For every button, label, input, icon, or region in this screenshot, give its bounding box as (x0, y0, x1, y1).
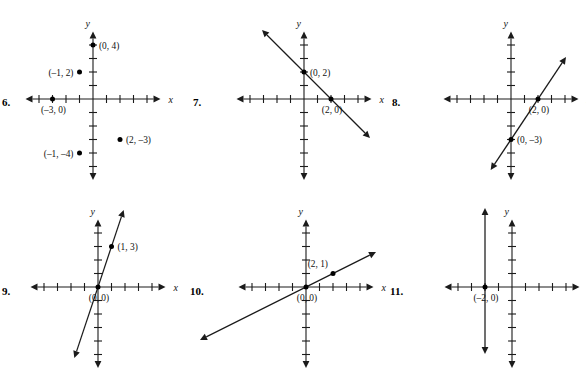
problem-6-x-axis-arrow-right (154, 96, 161, 103)
problem-7-number: 7. (193, 96, 201, 108)
problem-11-x-axis-arrow-right (573, 284, 580, 291)
problem-11-panel: 11.xy(–2, 0) (390, 186, 586, 370)
problem-8-y-axis-arrow-up (508, 32, 515, 39)
problem-7-point-label: (2, 0) (322, 105, 342, 116)
problem-10-y-axis-arrow-up (303, 220, 310, 227)
problem-6-point (50, 97, 55, 102)
problem-8-point (509, 137, 514, 142)
problem-9-y-axis-label: y (90, 206, 96, 217)
problem-9-y-axis-arrow-down (95, 361, 102, 368)
problem-6-y-axis-arrow-up (90, 32, 97, 39)
problem-9-y-axis-arrow-up (95, 220, 102, 227)
problem-7-point-label: (0, 2) (310, 68, 330, 79)
problem-11-point (483, 285, 488, 290)
problem-11-line-arrow-end (482, 347, 489, 354)
problem-9-x-axis-label: x (173, 282, 179, 293)
problem-6-point-label: (–1, 2) (49, 68, 74, 79)
problem-6-panel: 6.xy(0, 4)(–1, 2)(–3, 0)(2, –3)(–1, –4) (0, 0, 196, 186)
problem-7-x-axis-label: x (379, 94, 385, 105)
problem-10-point-label: (0, 0) (297, 293, 317, 304)
problem-9-panel: 9.xy(1, 3)(0, 0) (0, 186, 196, 370)
problem-9-point (96, 285, 101, 290)
problem-9-point (109, 244, 114, 249)
problem-9-graph-line (77, 217, 122, 352)
problem-8-line-arrow-end (559, 57, 566, 65)
problem-9-graph: xy(1, 3)(0, 0) (0, 186, 196, 370)
problem-6-x-axis-label: x (168, 94, 174, 105)
problem-6-graph: xy(0, 4)(–1, 2)(–3, 0)(2, –3)(–1, –4) (0, 0, 196, 186)
problem-8-point-label: (0, –3) (517, 135, 542, 146)
problem-7-graph-line (267, 35, 365, 133)
problem-10-point-label: (2, 1) (308, 259, 328, 270)
problem-9-x-axis-arrow-left (31, 284, 38, 291)
problem-6-y-axis-arrow-down (90, 173, 97, 180)
problem-6-point-label: (–1, –4) (44, 149, 74, 160)
problem-7-y-axis-label: y (296, 18, 302, 29)
problem-7-graph: xy(0, 2)(2, 0) (190, 0, 386, 186)
problem-6-point-label: (2, –3) (126, 135, 151, 146)
problem-8-point (536, 97, 541, 102)
problem-10-graph-line (206, 255, 369, 337)
problem-11-y-axis-arrow-down (509, 361, 516, 368)
problem-8-x-axis-arrow-left (444, 96, 451, 103)
exercise-sheet: 6.xy(0, 4)(–1, 2)(–3, 0)(2, –3)(–1, –4)7… (0, 0, 586, 370)
problem-6-point (91, 43, 96, 48)
problem-8-line-arrow-start (491, 162, 498, 170)
problem-10-x-axis-arrow-left (239, 284, 246, 291)
problem-10-graph: xy(2, 1)(0, 0) (190, 186, 386, 370)
problem-11-point-label: (–2, 0) (474, 293, 499, 304)
problem-8-y-axis-arrow-down (508, 173, 515, 180)
problem-10-number: 10. (190, 285, 204, 297)
problem-10-y-axis-arrow-down (303, 361, 310, 368)
problem-6-point (118, 137, 123, 142)
problem-7-panel: 7.xy(0, 2)(2, 0) (190, 0, 386, 186)
problem-8-panel: 8.xy(2, 0)(0, –3) (390, 0, 586, 186)
problem-9-point-label: (1, 3) (118, 242, 138, 253)
problem-7-point (329, 97, 334, 102)
problem-10-point (331, 271, 336, 276)
problem-7-y-axis-arrow-up (301, 32, 308, 39)
problem-7-point (302, 70, 307, 75)
problem-7-x-axis-arrow-right (365, 96, 372, 103)
problem-11-y-axis-label: y (504, 206, 510, 217)
problem-10-panel: 10.xy(2, 1)(0, 0) (190, 186, 386, 370)
problem-11-line-arrow-start (482, 208, 489, 215)
problem-6-y-axis-label: y (85, 18, 91, 29)
problem-9-number: 9. (2, 285, 10, 297)
problem-7-x-axis-arrow-left (237, 96, 244, 103)
problem-10-x-axis-arrow-right (367, 284, 374, 291)
problem-7-y-axis-arrow-down (301, 173, 308, 180)
problem-8-x-axis-arrow-right (572, 96, 579, 103)
problem-6-point-label: (–3, 0) (41, 105, 66, 116)
problem-10-x-axis-label: x (381, 282, 387, 293)
problem-6-point (77, 151, 82, 156)
problem-9-x-axis-arrow-right (159, 284, 166, 291)
problem-8-point-label: (2, 0) (529, 105, 549, 116)
problem-8-y-axis-label: y (503, 18, 509, 29)
problem-8-number: 8. (392, 96, 400, 108)
problem-6-number: 6. (2, 96, 10, 108)
problem-11-number: 11. (390, 285, 403, 297)
problem-9-line-arrow-end (118, 210, 124, 218)
problem-8-graph: xy(2, 0)(0, –3) (390, 0, 586, 186)
problem-9-line-arrow-start (73, 350, 79, 358)
problem-9-point-label: (0, 0) (89, 293, 109, 304)
problem-6-point (77, 70, 82, 75)
problem-6-x-axis-arrow-left (26, 96, 33, 103)
problem-11-x-axis-arrow-left (445, 284, 452, 291)
problem-11-y-axis-arrow-up (509, 220, 516, 227)
problem-10-y-axis-label: y (298, 206, 304, 217)
problem-6-point-label: (0, 4) (99, 41, 119, 52)
problem-10-point (304, 285, 309, 290)
problem-11-graph: xy(–2, 0) (390, 186, 586, 370)
